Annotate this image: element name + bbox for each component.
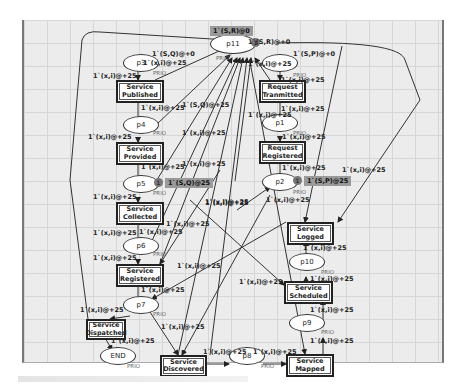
arc-inscription: 1`(x,i)@+25 xyxy=(143,59,187,67)
arc-inscription: 1`(S,Q)@+0 xyxy=(152,50,195,58)
arc-inscription: 1`(x,i)@+25 xyxy=(88,133,132,141)
arc-inscription: 1`(x,i)@+25 xyxy=(182,129,226,137)
marking-label: 1`(S,Q)@25 xyxy=(165,178,213,188)
arc-inscription: 1`(x,i)@+25 xyxy=(182,160,226,168)
priority-label: PRIO xyxy=(127,363,140,369)
arcs-layer xyxy=(0,0,462,387)
arc-inscription: 1`(x,i)@+25 xyxy=(166,220,210,228)
marking-label: 1`(S,R)@0 xyxy=(210,26,253,36)
place-p10[interactable]: p10 xyxy=(289,253,325,271)
priority-label: PRIO xyxy=(321,269,334,275)
transition-registered[interactable]: Service Registered xyxy=(116,264,164,287)
priority-label: PRIO xyxy=(261,363,274,369)
arc-inscription: 1`(x,i)@+25 xyxy=(310,275,354,283)
priority-label: PRIO xyxy=(153,70,166,76)
arc-inscription: 1`(x,i)@+25 xyxy=(177,262,221,270)
arc-inscription: 1`(x,i)@+25 xyxy=(205,199,249,207)
arc-inscription: 1`(x,i)@+25 xyxy=(266,196,310,204)
priority-label: PRIO xyxy=(321,329,334,335)
transition-discovered[interactable]: Service Discovered xyxy=(160,355,207,377)
arc-inscription: 1`(x,i)@+25 xyxy=(141,286,185,294)
arc-inscription: 1`(x,i)@+25 xyxy=(203,348,247,356)
transition-published[interactable]: Service Published xyxy=(116,80,164,103)
arc-inscription: 1`(x,i)@+25 xyxy=(248,60,292,68)
arc-inscription: 1`(x,i)@+25 xyxy=(239,278,283,286)
arc-inscription: 1`(x,i)@+25 xyxy=(310,337,354,345)
priority-label: PRIO xyxy=(153,130,166,136)
arc-inscription: 1`(x,i)@+25 xyxy=(248,111,292,119)
priority-label: PRIO xyxy=(293,189,306,195)
petri-net-canvas: p1111`(S,R)@0p3p4p511`(S,Q)@25p6p7ENDp8p… xyxy=(0,0,462,387)
arc-inscription: 1`(x,i)@+25 xyxy=(93,229,137,237)
transition-scheduled[interactable]: Service Scheduled xyxy=(284,281,333,304)
token-count-badge: 1 xyxy=(293,176,302,185)
arc-inscription: 1`(S,P)@+0 xyxy=(293,50,335,58)
arc-inscription: 1`(x,i)@+25 xyxy=(111,337,155,345)
transition-registered_req[interactable]: Request Registered xyxy=(259,141,306,164)
transition-mapped[interactable]: Service Mapped xyxy=(286,354,334,377)
figure-caption xyxy=(18,376,248,382)
arc-inscription: 1`(x,i)@+25 xyxy=(93,193,137,201)
arc-inscription: 1`(x,i)@+25 xyxy=(342,166,386,174)
arc-inscription: 1`(x,i)@+25 xyxy=(141,163,185,171)
transition-collected[interactable]: Service Collected xyxy=(116,202,164,225)
priority-label: PRIO xyxy=(293,72,306,78)
transition-provided[interactable]: Service Provided xyxy=(116,142,164,165)
arc-inscription: 1`(x,i)@+25 xyxy=(141,104,185,112)
marking-label: 1`(S,P)@25 xyxy=(304,176,351,186)
arc-inscription: 1`(x,i)@+25 xyxy=(80,306,124,314)
arc-inscription: 1`(x,i)@+25 xyxy=(253,348,297,356)
arc-inscription: 1`(x,i)@+25 xyxy=(139,228,183,236)
arc-inscription: 1`(x,i)@+25 xyxy=(282,164,326,172)
priority-label: PRIO xyxy=(216,55,229,61)
token-count-badge: 1 xyxy=(154,178,163,187)
priority-label: PRIO xyxy=(153,190,166,196)
priority-label: PRIO xyxy=(293,130,306,136)
arc-inscription: 1`(x,i)@+25 xyxy=(93,72,137,80)
arc-inscription: 1`(S,Q)@+25 xyxy=(182,101,229,109)
arc-inscription: 1`(x,i)@+25 xyxy=(161,323,205,331)
priority-label: PRIO xyxy=(153,251,166,257)
arc-inscription: 1`(x,i)@+25 xyxy=(310,306,354,314)
arc-inscription: 1`(S,R)@+0 xyxy=(248,38,290,46)
priority-label: PRIO xyxy=(153,311,166,317)
arc-inscription: 1`(x,i)@+25 xyxy=(303,244,347,252)
arc-inscription: 1`(x,i)@+25 xyxy=(93,254,137,262)
transition-logged[interactable]: Service Logged xyxy=(287,222,334,245)
place-p9[interactable]: p9 xyxy=(289,314,325,332)
